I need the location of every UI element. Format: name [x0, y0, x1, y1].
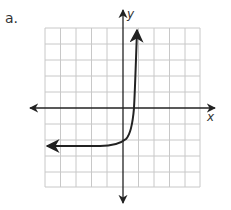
x-axis-label: x — [207, 110, 214, 124]
coordinate-graph — [0, 0, 231, 210]
y-axis-label: y — [127, 7, 134, 21]
